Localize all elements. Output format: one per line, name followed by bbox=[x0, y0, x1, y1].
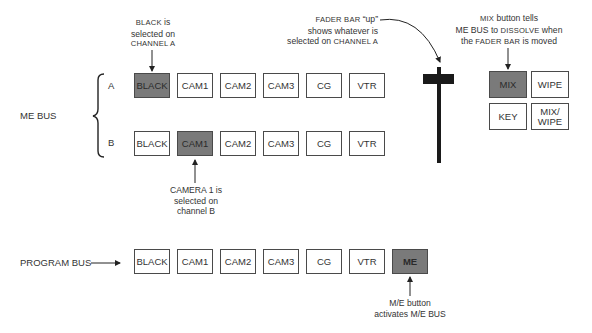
program-me-button[interactable]: ME bbox=[392, 249, 428, 274]
program-bus-label: PROGRAM BUS bbox=[20, 257, 91, 268]
program-cam3-button[interactable]: CAM3 bbox=[263, 249, 299, 274]
me-bus-bracket bbox=[93, 74, 104, 157]
channel-b-cg-button[interactable]: CG bbox=[306, 131, 342, 156]
fader-handle bbox=[423, 74, 454, 84]
program-cam1-button[interactable]: CAM1 bbox=[177, 249, 213, 274]
channel-b-cam1-button[interactable]: CAM1 bbox=[177, 131, 213, 156]
channel-a-label: A bbox=[108, 80, 114, 91]
program-black-button[interactable]: BLACK bbox=[134, 249, 170, 274]
fader-bar-note: FADER BAR “up” shows whatever is selecte… bbox=[270, 14, 378, 48]
key-button[interactable]: KEY bbox=[489, 103, 527, 130]
mix-button-note: MIX button tells ME BUS to DISSOLVE when… bbox=[448, 13, 570, 48]
wipe-button[interactable]: WIPE bbox=[531, 71, 569, 98]
channel-b-cam3-button[interactable]: CAM3 bbox=[263, 131, 299, 156]
me-bus-label: ME BUS bbox=[20, 110, 56, 121]
channel-a-vtr-button[interactable]: VTR bbox=[349, 73, 385, 98]
camera1-selected-note: CAMERA 1 is selected on channel B bbox=[160, 185, 232, 217]
mix-wipe-button[interactable]: MIX/ WIPE bbox=[531, 103, 569, 130]
channel-b-cam2-button[interactable]: CAM2 bbox=[220, 131, 256, 156]
channel-a-black-button[interactable]: BLACK bbox=[134, 73, 170, 98]
channel-b-black-button[interactable]: BLACK bbox=[134, 131, 170, 156]
channel-b-label: B bbox=[108, 137, 114, 148]
diagram-graphics bbox=[0, 0, 592, 333]
channel-a-cam1-button[interactable]: CAM1 bbox=[177, 73, 213, 98]
program-vtr-button[interactable]: VTR bbox=[349, 249, 385, 274]
black-selected-note: BLACK is selected on CHANNEL A bbox=[118, 17, 188, 50]
program-cg-button[interactable]: CG bbox=[306, 249, 342, 274]
mix-button[interactable]: MIX bbox=[489, 71, 527, 98]
channel-a-cg-button[interactable]: CG bbox=[306, 73, 342, 98]
program-cam2-button[interactable]: CAM2 bbox=[220, 249, 256, 274]
channel-a-cam2-button[interactable]: CAM2 bbox=[220, 73, 256, 98]
channel-b-vtr-button[interactable]: VTR bbox=[349, 131, 385, 156]
channel-a-cam3-button[interactable]: CAM3 bbox=[263, 73, 299, 98]
me-button-note: M/E button activates M/E BUS bbox=[368, 298, 452, 319]
